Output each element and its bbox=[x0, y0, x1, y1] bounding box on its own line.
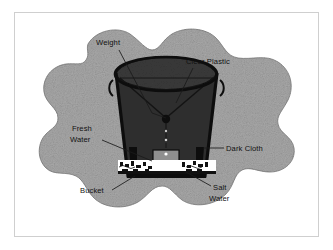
label-clear-plastic: Clear Plastic bbox=[186, 57, 230, 66]
salt-water-layer bbox=[118, 160, 216, 174]
diagram-stage: Weight Clear Plastic Fresh Water Dark Cl… bbox=[0, 0, 333, 250]
weight-ball bbox=[162, 115, 170, 123]
label-dark-cloth: Dark Cloth bbox=[226, 144, 263, 153]
label-salt-water-line2: Water bbox=[209, 194, 230, 203]
label-salt-water-line1: Salt bbox=[213, 183, 227, 192]
label-fresh-water-line1: Fresh bbox=[72, 124, 92, 133]
label-fresh-water-line2: Water bbox=[70, 135, 91, 144]
diagram-page: Weight Clear Plastic Fresh Water Dark Cl… bbox=[0, 0, 333, 250]
label-weight: Weight bbox=[96, 38, 121, 47]
label-bucket: Bucket bbox=[80, 186, 105, 195]
solar-still-diagram: Weight Clear Plastic Fresh Water Dark Cl… bbox=[0, 0, 333, 250]
